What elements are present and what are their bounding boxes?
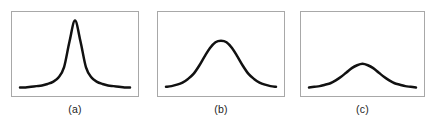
curve-a-leptokurtic: [11, 11, 139, 97]
curve-b-mesokurtic: [157, 11, 285, 97]
panel-a-label: (a): [11, 103, 139, 115]
kurtosis-figure: (a) (b) (c): [0, 0, 437, 122]
panel-b-label: (b): [157, 103, 285, 115]
panel-a: [11, 11, 139, 97]
panel-c-label: (c): [300, 103, 425, 115]
curve-c-platykurtic: [300, 11, 425, 97]
panel-b: [157, 11, 285, 97]
panel-c: [300, 11, 425, 97]
